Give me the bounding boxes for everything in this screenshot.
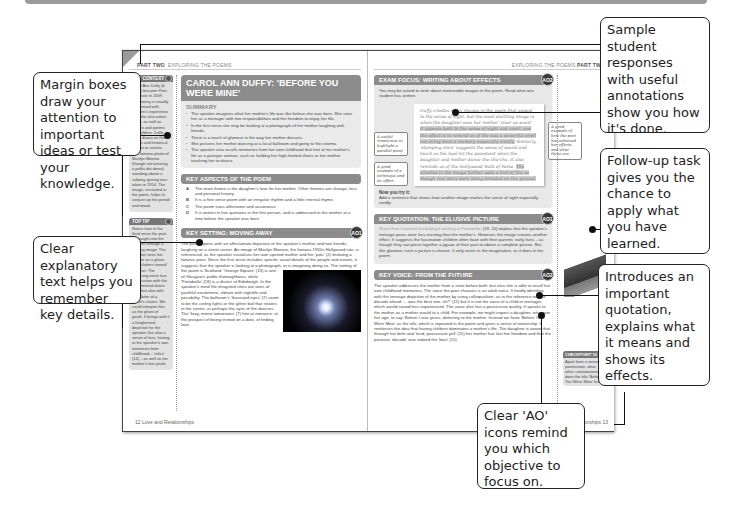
connector-dot xyxy=(164,132,171,139)
key-voice-text: The speaker addresses the mother from a … xyxy=(374,280,552,342)
ao-icon xyxy=(165,218,172,225)
annotation-box: A good example of how the poet has achie… xyxy=(548,122,582,160)
summary-heading: SUMMARY xyxy=(181,101,361,111)
annotation-box: A useful connective to highlight a paral… xyxy=(374,132,408,156)
exam-focus-block: EXAM FOCUS: WRITING ABOUT EFFECTSAO2 You… xyxy=(374,75,552,208)
top-decorative-bar xyxy=(25,0,707,4)
ao1-badge-icon: AO1 xyxy=(350,226,363,239)
key-setting-text: The poem opens with an affectionate depi… xyxy=(181,238,361,328)
connector-dot xyxy=(452,109,459,116)
connector-line xyxy=(140,44,141,64)
exam-focus-heading: EXAM FOCUS: WRITING ABOUT EFFECTSAO2 xyxy=(374,75,552,85)
dotted-column-divider xyxy=(176,75,177,411)
key-quotation-block: KEY QUOTATION: THE ELUSIVE PICTUREAO1 'E… xyxy=(374,214,552,263)
exam-intro: You may be asked to write about memorabl… xyxy=(374,85,552,102)
connector-line xyxy=(624,392,625,424)
key-aspects-heading: KEY ASPECTS OF THE POEM xyxy=(181,174,361,184)
ao-icon xyxy=(165,75,172,82)
summary-item: In the first verse she may be looking at… xyxy=(181,123,361,135)
poem-title-block: CAROL ANN DUFFY: 'BEFORE YOU WERE MINE' … xyxy=(181,75,361,168)
callout-sample-responses: Sample student responses with useful ann… xyxy=(600,17,710,133)
left-page: PART TWOEXPLORING THE POEMS KEY CONTEXT … xyxy=(123,51,368,431)
callout-key-quotation: Introduces an important quotation, expla… xyxy=(598,264,710,386)
callout-explanatory-text: Clear explanatory text helps you remembe… xyxy=(33,236,141,304)
ao2-badge-icon: AO2 xyxy=(541,268,554,281)
connector-dot xyxy=(538,312,545,319)
right-page: EXPLORING THE POEMS PART TWO EXAM FOCUS:… xyxy=(368,51,614,431)
running-head-left: PART TWOEXPLORING THE POEMS xyxy=(137,62,232,68)
now-you-try-heading: Now you try it: xyxy=(374,188,552,195)
summary-item: The speaker imagines what her mother's l… xyxy=(181,111,361,123)
callout-margin-boxes: Margin boxes draw your attention to impo… xyxy=(33,72,141,156)
top-tip-title: TOP TIP xyxy=(132,219,149,224)
header-rule xyxy=(374,69,608,70)
student-response: Duffy creates many images in the poem th… xyxy=(414,104,544,186)
key-quotation-text: 'Even then I wanted the bold girl winkin… xyxy=(374,224,552,260)
left-main-column: CAROL ANN DUFFY: 'BEFORE YOU WERE MINE' … xyxy=(181,75,361,332)
key-quotation-heading: KEY QUOTATION: THE ELUSIVE PICTUREAO1 xyxy=(374,214,552,224)
poem-title: CAROL ANN DUFFY: 'BEFORE YOU WERE MINE' xyxy=(181,75,361,101)
connector-line xyxy=(455,112,600,113)
page-number-left: 12 Love and Relationships xyxy=(135,419,194,425)
header-rule xyxy=(129,69,361,70)
now-you-try-task: Add a sentence that shows how another im… xyxy=(374,195,552,205)
ao1-badge-icon: AO1 xyxy=(541,212,554,225)
key-aspect-item: DIt is written in five quintains in the … xyxy=(181,210,361,222)
summary-item: The speaker also recalls memories from h… xyxy=(181,147,361,167)
ao2-badge-icon: AO2 xyxy=(541,73,554,86)
key-voice-heading: KEY VOICE: FROM THE FUTUREAO2 xyxy=(374,270,552,280)
key-aspect-item: AThe main theme is the daughter's love f… xyxy=(181,186,361,198)
running-head-right: EXPLORING THE POEMS PART TWO xyxy=(512,62,608,68)
callout-follow-up-task: Follow-up task gives you the chance to a… xyxy=(600,148,710,254)
connector-dot xyxy=(536,292,543,299)
annotation-box: A good example of a technique and its ef… xyxy=(374,162,408,186)
callout-ao-icons: Clear 'AO' icons remind you which object… xyxy=(477,403,585,489)
connector-dot xyxy=(589,226,596,233)
disco-ball-image xyxy=(283,270,361,332)
key-setting-heading: KEY SETTING: MOVING AWAYAO1 xyxy=(181,228,361,238)
connector-line xyxy=(614,424,625,425)
connector-line xyxy=(541,315,542,415)
dotted-column-divider xyxy=(557,75,558,411)
connector-dot xyxy=(196,239,203,246)
right-main-column: EXAM FOCUS: WRITING ABOUT EFFECTSAO2 You… xyxy=(374,75,552,342)
